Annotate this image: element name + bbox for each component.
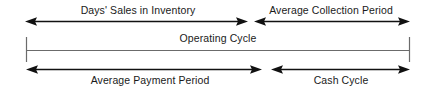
cash-cycle-arrow [271, 65, 410, 73]
cash-cycle-diagram: Days' Sales in Inventory Average Collect… [0, 0, 430, 93]
average-collection-period-arrow [254, 17, 410, 25]
label-operating-cycle: Operating Cycle [180, 32, 257, 44]
bottom-row-group [26, 65, 410, 73]
label-days-sales-in-inventory: Days' Sales in Inventory [81, 4, 196, 16]
label-average-collection-period: Average Collection Period [269, 4, 393, 16]
days-sales-in-inventory-arrow [25, 17, 248, 25]
top-row-group [25, 17, 410, 25]
label-cash-cycle: Cash Cycle [314, 74, 369, 86]
average-payment-period-arrow [26, 65, 262, 73]
label-average-payment-period: Average Payment Period [91, 74, 210, 86]
